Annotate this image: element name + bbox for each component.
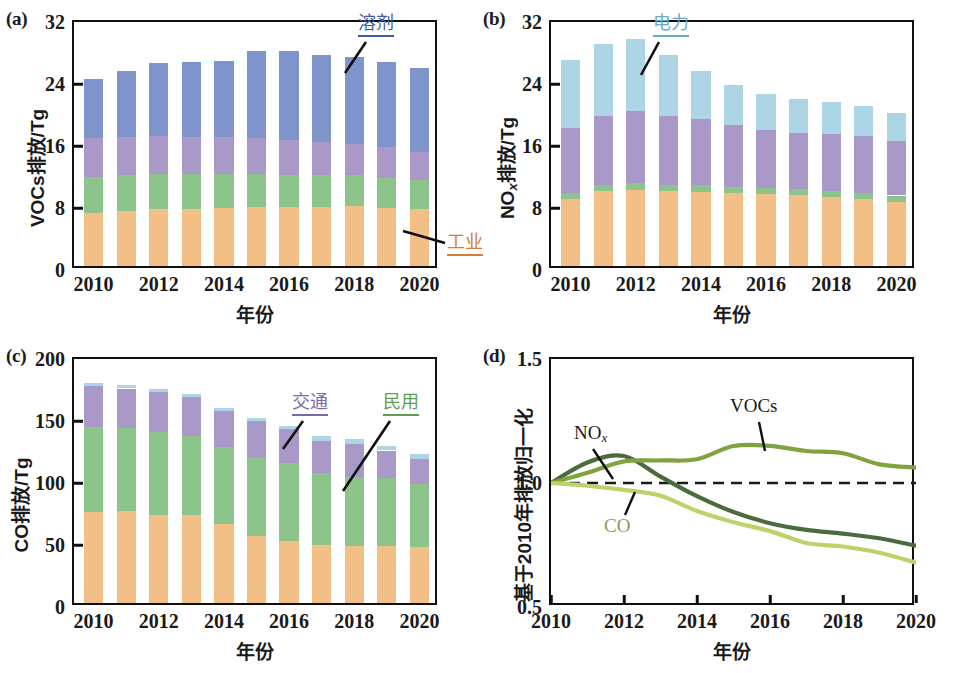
- bar-segment-power: [214, 408, 233, 411]
- bar-segment-transport: [789, 133, 808, 188]
- stacked-bar: [854, 18, 873, 266]
- bar-segment-industry: [279, 207, 298, 266]
- stacked-bar: [84, 355, 103, 603]
- x-axis-tick-label: 2016: [269, 273, 309, 296]
- y-axis-tick-mark: [74, 482, 83, 485]
- bar-segment-industry: [854, 199, 873, 266]
- bar-segment-industry: [724, 193, 743, 266]
- annotation-label-transport: 交通: [292, 392, 328, 416]
- y-axis-tick-label: 16: [522, 135, 542, 158]
- bar-segment-power: [887, 113, 906, 142]
- bar-segment-power: [182, 394, 201, 397]
- bar-segment-transport: [84, 138, 103, 177]
- bar-segment-industry: [182, 209, 201, 266]
- bar-segment-transport: [182, 397, 201, 435]
- x-axis-tick-label: 2016: [269, 610, 309, 633]
- bar-segment-industry: [789, 195, 808, 266]
- bar-segment-residential: [182, 174, 201, 209]
- bar-segment-transport: [117, 137, 136, 175]
- panel-d-normalized: (d) 基于2010年排放归一化 0.51.01.520102012201420…: [477, 337, 954, 673]
- y-axis-tick-mark: [551, 83, 560, 86]
- x-axis-tick-label: 2020: [399, 610, 439, 633]
- bar-segment-power: [247, 418, 266, 421]
- stacked-bar: [312, 18, 331, 266]
- stacked-bar: [247, 18, 266, 266]
- bar-segment-residential: [822, 191, 841, 197]
- bar-segment-residential: [724, 187, 743, 193]
- series-label-co: CO: [604, 515, 630, 537]
- stacked-bar: [691, 18, 710, 266]
- bar-segment-residential: [149, 432, 168, 515]
- stacked-bar: [789, 18, 808, 266]
- bar-segment-residential: [561, 193, 580, 199]
- bar-segment-residential: [756, 188, 775, 194]
- bar-segment-industry: [312, 545, 331, 603]
- bar-segment-industry: [84, 512, 103, 603]
- bar-segment-residential: [312, 473, 331, 545]
- bar-segment-transport: [691, 119, 710, 186]
- y-axis-tick-label: 200: [35, 348, 65, 371]
- bar-segment-industry: [345, 206, 364, 266]
- bar-segment-transport: [822, 134, 841, 191]
- x-axis-tick-label: 2018: [811, 273, 851, 296]
- x-axis-tick-label: 2014: [681, 273, 721, 296]
- y-axis-tick-label: 8: [532, 197, 542, 220]
- bar-segment-power: [756, 94, 775, 130]
- bar-segment-industry: [279, 541, 298, 603]
- x-axis-tick-label: 2020: [896, 610, 936, 633]
- x-axis-tick-label: 2010: [551, 273, 591, 296]
- bar-segment-solvent: [279, 51, 298, 139]
- bar-segment-transport: [410, 459, 429, 484]
- stacked-bar: [149, 355, 168, 603]
- panel-c-co: (c) CO排放/Tg 0501001502002010201220142016…: [0, 337, 477, 673]
- x-axis-tick-label: 2020: [876, 273, 916, 296]
- bar-segment-transport: [279, 140, 298, 175]
- stacked-bar: [182, 355, 201, 603]
- bar-segment-residential: [247, 174, 266, 207]
- x-axis-tick-label: 2016: [746, 273, 786, 296]
- bar-segment-residential: [626, 183, 645, 190]
- bar-segment-residential: [214, 174, 233, 208]
- bar-segment-industry: [561, 199, 580, 266]
- stacked-bar: [182, 18, 201, 266]
- series-leader-vocs: [756, 419, 768, 454]
- bar-segment-power: [84, 383, 103, 386]
- bar-segment-industry: [691, 192, 710, 266]
- bar-segment-industry: [84, 213, 103, 266]
- bar-segment-transport: [659, 116, 678, 185]
- panel-b-tag: (b): [483, 8, 505, 30]
- y-axis-tick-label: 1.5: [517, 348, 542, 371]
- bar-segment-transport: [247, 421, 266, 458]
- bar-segment-solvent: [377, 62, 396, 147]
- bar-segment-transport: [149, 392, 168, 432]
- y-axis-tick-mark: [551, 207, 560, 210]
- emissions-figure: (a) VOCs排放/Tg 08162432201020122014201620…: [0, 0, 954, 673]
- bar-segment-industry: [377, 208, 396, 266]
- x-axis-tick-label: 2016: [750, 610, 790, 633]
- y-axis-tick-label: 32: [45, 11, 65, 34]
- bar-segment-transport: [312, 142, 331, 175]
- annotation-label-solvent: 溶剂: [358, 13, 394, 37]
- stacked-bar: [724, 18, 743, 266]
- bar-segment-residential: [854, 193, 873, 199]
- bar-segment-residential: [887, 196, 906, 202]
- stacked-bar: [117, 18, 136, 266]
- stacked-bar: [149, 18, 168, 266]
- panel-d-xlabel: 年份: [549, 637, 914, 664]
- x-axis-tick-label: 2012: [616, 273, 656, 296]
- bar-segment-transport: [561, 128, 580, 193]
- panel-a-vocs: (a) VOCs排放/Tg 08162432201020122014201620…: [0, 0, 477, 336]
- y-axis-tick-label: 100: [35, 472, 65, 495]
- stacked-bar: [756, 18, 775, 266]
- panel-b-xlabel: 年份: [549, 300, 914, 327]
- bar-segment-industry: [182, 515, 201, 603]
- x-axis-tick-label: 2014: [677, 610, 717, 633]
- panel-c-ylabel: CO排放/Tg: [6, 458, 33, 553]
- stacked-bar: [247, 355, 266, 603]
- panel-a-tag: (a): [6, 8, 27, 30]
- x-axis-tick-label: 2010: [531, 610, 571, 633]
- bar-segment-residential: [410, 484, 429, 547]
- annotation-leader-solvent: [342, 39, 369, 76]
- x-axis-tick-label: 2018: [823, 610, 863, 633]
- annotation-leader-power: [638, 39, 662, 78]
